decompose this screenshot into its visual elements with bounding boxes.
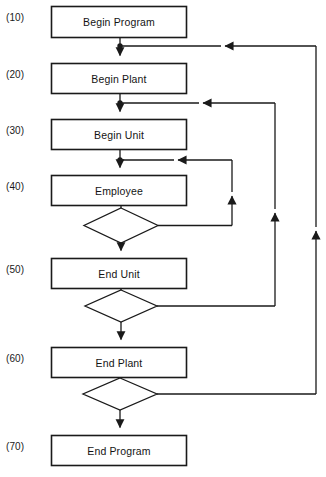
step-number-50: (50) [6,264,24,275]
node-unit-decision[interactable] [85,290,157,322]
node-employee[interactable] [51,175,187,206]
node-begin-plant[interactable] [51,63,187,94]
step-number-30: (30) [6,125,24,136]
junction-dot-unit-entry [117,100,122,105]
junction-dot-plant-entry [117,43,122,48]
step-number-20: (20) [6,69,24,80]
junction-dot-employee-entry [117,157,122,162]
step-number-70: (70) [6,441,24,452]
step-number-40: (40) [6,181,24,192]
flowchart-canvas: (10) (20) (30) (40) (50) (60) (70) Begin… [0,0,326,477]
node-end-unit[interactable] [51,258,187,289]
node-begin-program[interactable] [51,6,187,38]
node-end-program[interactable] [51,435,187,466]
node-plant-decision[interactable] [83,378,157,410]
node-end-plant[interactable] [51,347,187,378]
step-number-10: (10) [6,12,24,23]
node-employee-decision[interactable] [84,208,158,243]
step-number-60: (60) [6,353,24,364]
node-begin-unit[interactable] [51,119,187,150]
